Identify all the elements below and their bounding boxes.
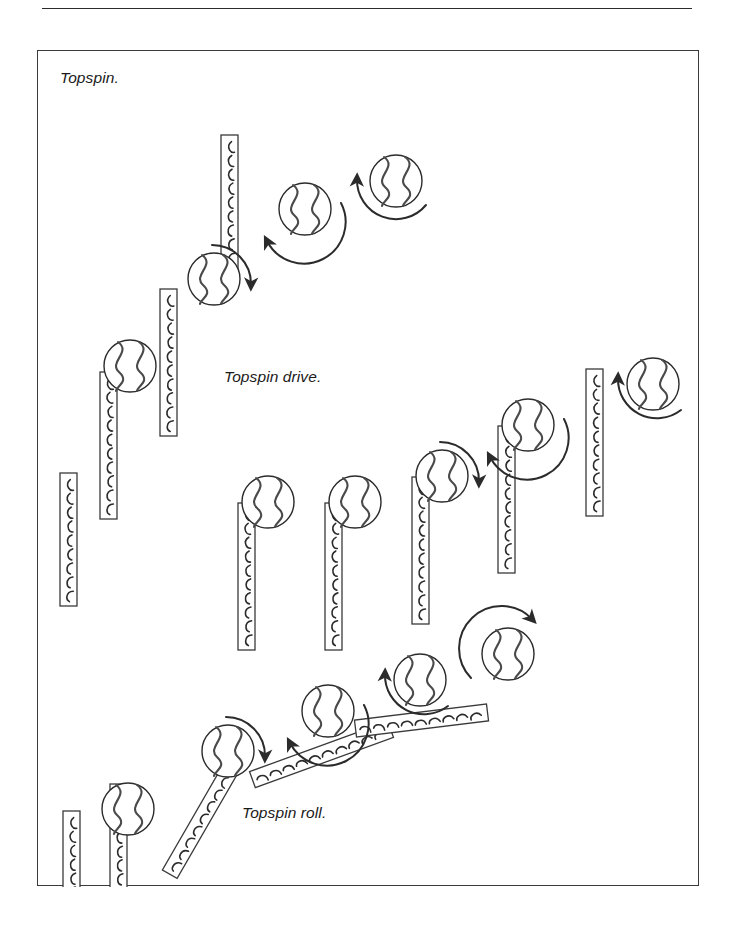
sequence-topspin-drive	[238, 358, 681, 650]
figure-frame: Topspin. Topspin drive. Topspin roll.	[37, 50, 699, 886]
bat-topspin-1	[100, 372, 117, 519]
stroke-diagram	[38, 51, 700, 887]
ball-topspin-0	[104, 340, 156, 392]
bat-topspin-drive-1	[325, 503, 342, 650]
bat-topspin-drive-2	[412, 477, 429, 624]
bat-topspin-drive-4	[586, 369, 603, 516]
ball-topspin-drive-1	[329, 476, 381, 528]
bat-topspin-0	[60, 473, 77, 606]
figure-page: Topspin. Topspin drive. Topspin roll.	[0, 0, 730, 930]
ball-topspin-roll-3	[385, 654, 448, 714]
ball-topspin-roll-0	[102, 783, 154, 835]
bat-topspin-2	[160, 289, 177, 436]
caption-topspin-roll: Topspin roll.	[242, 804, 326, 822]
bat-topspin-roll-4	[354, 704, 488, 737]
page-header-rule	[42, 8, 692, 9]
bat-topspin-drive-0	[238, 503, 255, 650]
ball-topspin-roll-1	[202, 717, 265, 777]
ball-topspin-drive-0	[242, 476, 294, 528]
bat-topspin-drive-3	[498, 426, 515, 573]
bat-topspin-roll-0	[63, 811, 80, 887]
ball-topspin-3	[357, 155, 426, 219]
ball-topspin-2	[267, 183, 346, 264]
caption-topspin-drive: Topspin drive.	[224, 368, 321, 386]
ball-topspin-1	[188, 245, 251, 305]
ball-topspin-drive-4	[618, 358, 681, 418]
sequence-topspin-roll	[63, 606, 534, 887]
caption-topspin: Topspin.	[60, 69, 119, 87]
ball-topspin-drive-2	[416, 442, 479, 502]
ball-topspin-roll-4	[459, 606, 534, 680]
